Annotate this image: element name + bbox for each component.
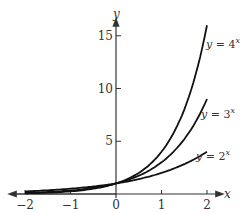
- exponential-chart: −2−1012 51015 y = 4xy = 3xy = 2x x y: [0, 0, 241, 213]
- curve-label: y = 3x: [200, 106, 235, 121]
- y-tick-label: 5: [105, 134, 113, 148]
- x-axis-label: x: [224, 187, 231, 201]
- y-axis-label: y: [112, 7, 120, 21]
- y-tick-label: 15: [98, 29, 113, 43]
- x-tick-label: 1: [158, 198, 166, 212]
- curve-labels: y = 4xy = 3xy = 2x: [195, 36, 240, 163]
- y-tick-label: 10: [98, 82, 113, 96]
- x-tick-label: 0: [112, 198, 120, 212]
- y-ticks: 51015: [98, 29, 121, 149]
- curve-label: y = 2x: [195, 148, 230, 163]
- x-tick-label: −2: [16, 198, 34, 212]
- curve-label: y = 4x: [205, 36, 240, 51]
- x-tick-label: 2: [203, 198, 211, 212]
- x-tick-label: −1: [62, 198, 80, 212]
